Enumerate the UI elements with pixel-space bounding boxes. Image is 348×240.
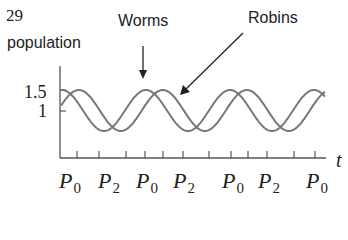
x-tick-label: P2	[258, 168, 280, 197]
x-tick-label: P0	[306, 168, 328, 197]
x-ticks	[77, 151, 315, 158]
robins-arrow	[180, 33, 243, 95]
robins-curve	[61, 90, 325, 131]
worms-arrow	[139, 46, 147, 79]
x-tick-label: P0	[59, 168, 81, 197]
x-tick-label: P2	[173, 168, 195, 197]
x-tick-label: P2	[98, 168, 120, 197]
x-tick-label: P0	[222, 168, 244, 197]
x-tick-label: P0	[136, 168, 158, 197]
